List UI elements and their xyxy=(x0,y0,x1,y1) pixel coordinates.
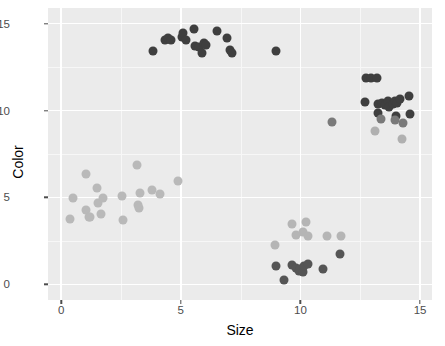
gridline-vertical-major xyxy=(300,8,302,300)
gridline-vertical-major xyxy=(419,8,421,300)
x-axis-tick-mark xyxy=(180,300,181,304)
gridline-horizontal-major xyxy=(48,23,432,25)
data-point xyxy=(370,127,379,136)
data-point xyxy=(376,115,385,124)
data-point xyxy=(198,49,207,58)
x-axis-tick-label: 5 xyxy=(178,304,184,316)
y-axis-tick-label: 10 xyxy=(0,105,10,117)
gridline-vertical-major xyxy=(60,8,62,300)
data-point xyxy=(93,183,102,192)
data-point xyxy=(212,26,221,35)
scatter-plot-figure: 051015051015 Size Color xyxy=(0,0,445,346)
data-point xyxy=(99,194,108,203)
data-point xyxy=(395,95,404,104)
data-point xyxy=(189,24,198,33)
data-point xyxy=(136,189,145,198)
gridline-vertical-minor xyxy=(360,8,361,300)
data-point xyxy=(132,161,141,170)
data-point xyxy=(406,110,415,119)
data-point xyxy=(272,262,281,271)
y-axis-tick-mark xyxy=(44,197,48,198)
y-axis-tick-label: 15 xyxy=(0,18,10,30)
data-point xyxy=(398,135,407,144)
data-point xyxy=(149,47,158,56)
data-point xyxy=(372,73,381,82)
plot-panel xyxy=(48,8,432,300)
y-axis-tick-label: 0 xyxy=(4,278,10,290)
data-point xyxy=(322,231,331,240)
gridline-horizontal-major xyxy=(48,284,432,286)
data-point xyxy=(228,49,237,58)
data-point xyxy=(65,215,74,224)
data-point xyxy=(319,264,328,273)
data-point xyxy=(272,47,281,56)
data-point xyxy=(361,97,370,106)
y-axis-tick-mark xyxy=(44,23,48,24)
x-axis-tick-label: 0 xyxy=(58,304,64,316)
data-point xyxy=(279,276,288,285)
gridline-vertical-minor xyxy=(121,8,122,300)
data-point xyxy=(134,203,143,212)
x-axis-tick-label: 15 xyxy=(414,304,427,316)
data-point xyxy=(174,176,183,185)
x-axis-tick-mark xyxy=(419,300,420,304)
x-axis-tick-mark xyxy=(60,300,61,304)
data-point xyxy=(327,117,336,126)
data-point xyxy=(405,91,414,100)
data-point xyxy=(156,189,165,198)
data-point xyxy=(85,212,94,221)
data-point xyxy=(82,169,91,178)
data-point xyxy=(288,220,297,229)
data-point xyxy=(302,217,311,226)
data-point xyxy=(181,36,190,45)
data-point xyxy=(118,191,127,200)
y-axis-tick-mark xyxy=(44,110,48,111)
data-point xyxy=(271,241,280,250)
x-axis-tick-mark xyxy=(300,300,301,304)
data-point xyxy=(223,34,232,43)
gridline-vertical-major xyxy=(180,8,182,300)
data-point xyxy=(337,231,346,240)
data-point xyxy=(399,118,408,127)
gridline-vertical-minor xyxy=(241,8,242,300)
data-point xyxy=(96,209,105,218)
y-axis-title: Color xyxy=(10,82,26,242)
data-point xyxy=(119,216,128,225)
data-point xyxy=(335,249,344,258)
data-point xyxy=(167,36,176,45)
x-axis-title: Size xyxy=(48,322,432,338)
x-axis-tick-label: 10 xyxy=(294,304,307,316)
data-point xyxy=(69,194,78,203)
data-point xyxy=(201,41,210,50)
y-axis-tick-mark xyxy=(44,284,48,285)
data-point xyxy=(303,231,312,240)
data-point xyxy=(303,260,312,269)
